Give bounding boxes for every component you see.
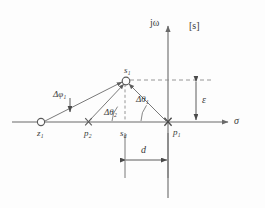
angle-arc-delta-theta-1 <box>141 105 147 121</box>
label-delta-phi-1: Δφ1 <box>53 90 66 100</box>
label-d: d <box>141 145 146 155</box>
label-sigma-d-base: s <box>120 128 124 138</box>
marker-s-1 <box>122 77 130 85</box>
s-plane-label: [s] <box>189 21 200 31</box>
real-axis-label: σ <box>234 116 239 126</box>
label-pole-2-base: p <box>84 128 89 138</box>
label-pole-2: p2 <box>84 129 91 139</box>
label-delta-theta-1-base: Δθ <box>136 94 146 104</box>
label-delta-theta-1-sub: 1 <box>146 99 149 105</box>
label-pole-1-sub: 1 <box>178 132 181 138</box>
imaginary-axis-label: jω <box>150 18 159 28</box>
label-sigma-d-sub: d <box>124 133 127 139</box>
marker-zero-1 <box>37 118 44 125</box>
label-epsilon: ε <box>202 95 206 105</box>
label-pole-1-base: p <box>173 127 178 137</box>
root-locus-geometry-figure: jω [s] σ z1 p2 sd p1 s1 Δφ1 Δθ2 Δθ1 ε d <box>0 0 265 208</box>
label-s-1: s1 <box>124 66 131 76</box>
label-s-1-base: s <box>124 65 128 75</box>
label-delta-theta-2-base: Δθ <box>104 107 114 117</box>
label-delta-theta-1: Δθ1 <box>136 95 149 105</box>
label-delta-phi-1-sub: 1 <box>63 94 66 100</box>
label-zero-1-sub: 1 <box>41 133 44 139</box>
label-zero-1: z1 <box>37 129 44 139</box>
figure-canvas <box>0 0 265 208</box>
label-delta-theta-2-sub: 2 <box>114 112 117 118</box>
label-pole-1: p1 <box>173 128 180 138</box>
label-sigma-d: sd <box>120 129 127 139</box>
label-pole-2-sub: 2 <box>89 133 92 139</box>
label-delta-theta-2: Δθ2 <box>104 108 117 118</box>
label-delta-phi-1-base: Δφ <box>53 89 63 99</box>
label-zero-1-base: z <box>37 128 41 138</box>
label-s-1-sub: 1 <box>128 70 131 76</box>
